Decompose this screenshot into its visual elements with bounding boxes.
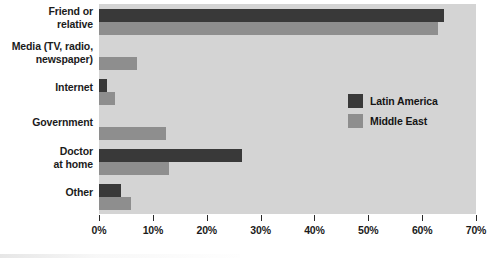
category-label: Internet: [0, 81, 93, 94]
category-axis-labels: Friend or relativeMedia (TV, radio, news…: [0, 0, 93, 214]
legend-item[interactable]: Latin America: [348, 92, 438, 109]
scan-artifact: [0, 254, 240, 258]
bar-1: [99, 127, 166, 140]
bar-1: [99, 22, 438, 35]
category-label: Government: [0, 116, 93, 129]
bar-chart: Friend or relativeMedia (TV, radio, news…: [0, 0, 499, 260]
x-axis-tick-label: 50%: [358, 224, 378, 236]
x-axis-tick-label: 30%: [250, 224, 270, 236]
x-axis-tick-label: 40%: [304, 224, 324, 236]
bar-0: [99, 79, 107, 92]
bar-1: [99, 197, 131, 210]
x-axis-tick-label: 20%: [196, 224, 216, 236]
legend-label: Middle East: [370, 115, 427, 127]
legend-swatch-icon: [348, 114, 363, 128]
chart-legend: Latin AmericaMiddle East: [348, 92, 438, 132]
x-axis-tick: [476, 215, 477, 221]
legend-label: Latin America: [370, 95, 438, 107]
category-label: Other: [0, 186, 93, 199]
x-axis-tick-label: 0%: [92, 224, 107, 236]
x-axis-tick: [99, 215, 100, 221]
category-label: Doctor at home: [0, 145, 93, 170]
x-axis-line: [99, 214, 477, 215]
x-axis-tick-label: 60%: [412, 224, 432, 236]
x-axis-tick: [368, 215, 369, 221]
bar-0: [99, 9, 444, 22]
x-axis-tick: [261, 215, 262, 221]
bar-0: [99, 149, 242, 162]
bar-1: [99, 57, 137, 70]
x-axis-tick: [314, 215, 315, 221]
x-axis-tick: [422, 215, 423, 221]
x-axis-tick-label: 70%: [466, 224, 486, 236]
x-axis-tick: [153, 215, 154, 221]
bar-1: [99, 162, 169, 175]
category-label: Media (TV, radio, newspaper): [0, 40, 93, 65]
legend-swatch-icon: [348, 94, 363, 108]
x-axis-tick-label: 10%: [143, 224, 163, 236]
bar-0: [99, 184, 121, 197]
x-axis-tick: [207, 215, 208, 221]
bar-1: [99, 92, 115, 105]
category-label: Friend or relative: [0, 5, 93, 30]
legend-item[interactable]: Middle East: [348, 112, 438, 129]
